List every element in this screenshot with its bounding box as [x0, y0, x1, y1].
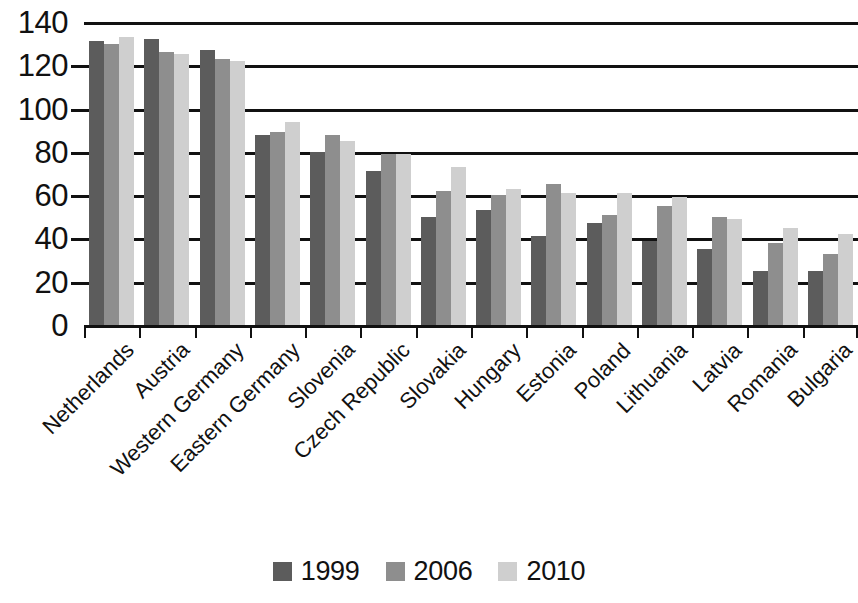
bar-1999 — [697, 249, 712, 325]
bar-group — [360, 22, 415, 325]
x-tick-mark — [416, 325, 418, 338]
x-tick-mark — [471, 325, 473, 338]
x-tick-mark — [747, 325, 749, 338]
bar-2006 — [602, 215, 617, 325]
bar-group — [747, 22, 802, 325]
bar-1999 — [587, 223, 602, 325]
bar-2010 — [119, 37, 134, 325]
chart-legend: 199920062010 — [0, 558, 858, 585]
bar-2010 — [230, 61, 245, 325]
x-axis-label: Latvia — [688, 380, 704, 396]
bar-2006 — [546, 184, 561, 325]
x-axis-label: Romania — [723, 400, 739, 416]
y-tick-label: 60 — [35, 180, 68, 211]
bar-group — [139, 22, 194, 325]
y-tick-label: 140 — [18, 7, 68, 38]
bar-1999 — [642, 241, 657, 325]
bar-group — [84, 22, 139, 325]
x-axis-label: Eastern Germany — [166, 460, 182, 476]
bar-2006 — [270, 132, 285, 325]
plot-area — [84, 22, 858, 325]
bar-group — [250, 22, 305, 325]
bar-2010 — [174, 54, 189, 325]
bar-2006 — [712, 217, 727, 325]
bar-2010 — [451, 167, 466, 325]
x-tick-mark — [803, 325, 805, 338]
bar-group — [803, 22, 858, 325]
legend-label: 1999 — [301, 558, 360, 585]
bar-group — [471, 22, 526, 325]
x-axis-label: Czech Republic — [289, 447, 305, 463]
x-tick-mark — [526, 325, 528, 338]
y-tick-label: 0 — [51, 310, 68, 341]
bar-2006 — [104, 44, 119, 325]
bar-1999 — [753, 271, 768, 325]
x-tick-mark — [250, 325, 252, 338]
bar-2006 — [159, 52, 174, 325]
bar-1999 — [421, 217, 436, 325]
x-axis-label: Western Germany — [106, 464, 122, 480]
bar-2006 — [823, 254, 838, 325]
x-axis-label: Slovenia — [283, 397, 299, 413]
bar-2010 — [506, 189, 521, 325]
y-tick-label: 40 — [35, 223, 68, 254]
bar-2010 — [672, 197, 687, 325]
bar-group — [692, 22, 747, 325]
bar-1999 — [255, 135, 270, 325]
bar-2006 — [768, 243, 783, 325]
legend-swatch-icon — [273, 562, 292, 581]
bar-1999 — [144, 39, 159, 325]
x-axis-label: Austria — [129, 386, 145, 402]
legend-swatch-icon — [498, 562, 517, 581]
bar-2006 — [657, 206, 672, 325]
y-tick-label: 120 — [18, 50, 68, 81]
bar-groups — [84, 22, 858, 325]
y-tick-label: 100 — [18, 93, 68, 124]
y-tick-label: 20 — [35, 266, 68, 297]
bar-1999 — [476, 210, 491, 325]
x-tick-mark — [84, 325, 86, 338]
legend-swatch-icon — [386, 562, 405, 581]
bar-2006 — [215, 59, 230, 325]
x-tick-mark — [139, 325, 141, 338]
bar-1999 — [310, 152, 325, 325]
legend-item[interactable]: 2010 — [498, 558, 585, 585]
x-axis-label: Poland — [570, 387, 586, 403]
y-tick-label: 80 — [35, 136, 68, 167]
bar-2010 — [561, 193, 576, 325]
x-tick-mark — [195, 325, 197, 338]
bar-2006 — [491, 195, 506, 325]
x-tick-mark — [692, 325, 694, 338]
bar-1999 — [808, 271, 823, 325]
x-axis-labels: NetherlandsAustriaWestern GermanyEastern… — [84, 340, 858, 470]
bar-group — [526, 22, 581, 325]
bar-2006 — [381, 154, 396, 325]
bar-group — [637, 22, 692, 325]
bar-1999 — [531, 236, 546, 325]
bar-2006 — [436, 191, 451, 325]
bar-2010 — [617, 193, 632, 325]
x-axis-ticks — [84, 325, 858, 339]
x-axis-label: Netherlands — [38, 422, 54, 438]
legend-item[interactable]: 1999 — [273, 558, 360, 585]
x-tick-mark — [582, 325, 584, 338]
legend-item[interactable]: 2006 — [386, 558, 473, 585]
x-axis-label: Estonia — [512, 390, 528, 406]
x-axis-label: Slovakia — [395, 397, 411, 413]
bar-group — [305, 22, 360, 325]
x-axis-label: Hungary — [450, 397, 466, 413]
bar-group — [582, 22, 637, 325]
x-tick-mark — [360, 325, 362, 338]
bar-2010 — [396, 154, 411, 325]
y-axis: 020406080100120140 — [0, 0, 74, 340]
bar-1999 — [366, 171, 381, 325]
x-axis-label: Lithuania — [612, 401, 628, 417]
bar-2010 — [340, 141, 355, 325]
x-axis-label: Bulgaria — [783, 395, 799, 411]
bar-2010 — [285, 122, 300, 325]
bar-2010 — [838, 234, 853, 325]
bar-2010 — [783, 228, 798, 325]
bar-group — [416, 22, 471, 325]
bar-group — [195, 22, 250, 325]
bar-1999 — [89, 41, 104, 325]
